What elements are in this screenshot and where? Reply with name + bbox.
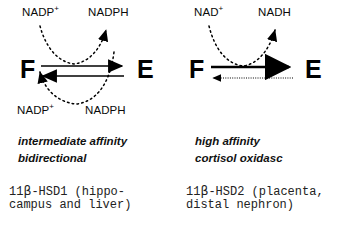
caption-affinity-line1: intermediate affinity xyxy=(18,133,127,149)
caption-affinity-line1: high affinity xyxy=(195,133,260,149)
caption-affinity-line2: bidirectional xyxy=(18,150,86,166)
metabolite-cortisone-E: E xyxy=(137,57,154,82)
cofactor-nadp-plus-bottom: NADP+ xyxy=(17,104,54,116)
cofactor-curve-bottom xyxy=(40,52,114,104)
caption-enzyme-line2: campus and liver) xyxy=(9,198,131,213)
cofactor-curve-top xyxy=(40,26,106,64)
cofactor-nadph-bottom: NADPH xyxy=(85,104,126,116)
panel-hsd2: NAD+ NADH F E high affinity cortisol oxi… xyxy=(177,0,354,228)
cofactor-nadph-top: NADPH xyxy=(88,6,129,18)
panel-hsd1: NADP+ NADPH NADP+ NADPH F E intermediate… xyxy=(0,0,177,228)
caption-enzyme-line2: distal nephron) xyxy=(186,198,294,213)
metabolite-cortisone-E: E xyxy=(305,57,322,82)
metabolite-cortisol-F: F xyxy=(20,57,35,82)
caption-affinity-line2: cortisol oxidasc xyxy=(195,150,283,166)
reaction-diagram: NADP+ NADPH NADP+ NADPH F E intermediate… xyxy=(0,0,354,228)
cofactor-nadp-plus-top: NADP+ xyxy=(22,6,59,18)
metabolite-cortisol-F: F xyxy=(189,57,204,82)
cofactor-nadh-top: NADH xyxy=(258,6,291,18)
cofactor-curve-top xyxy=(209,26,275,66)
cofactor-nad-plus-top: NAD+ xyxy=(194,6,223,18)
